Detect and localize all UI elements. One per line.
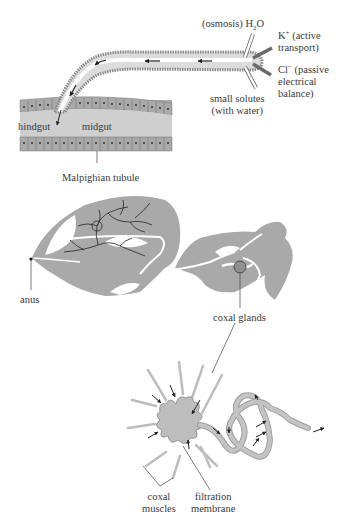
hindgut-label: hindgut [18, 121, 50, 133]
potassium-label: K+ (active transport) [278, 30, 321, 54]
coxal-glands-label: coxal glands [213, 312, 266, 324]
small-solutes-label: small solutes (with water) [210, 93, 265, 117]
midgut-label: midgut [82, 121, 112, 133]
arachnid-body [29, 196, 292, 300]
osmosis-label: (osmosis) H2O [202, 18, 264, 30]
coxal-gland-detail [128, 362, 324, 490]
chloride-label: Cl− (passive electrical balance) [278, 64, 329, 100]
malpighian-tubule-label: Malpighian tubule [62, 172, 139, 184]
filtration-membrane-label: filtration membrane [191, 491, 235, 515]
coxal-detail-pointer-line [212, 323, 235, 373]
coxal-muscles-label: coxal muscles [142, 491, 176, 515]
anus-label: anus [20, 294, 39, 306]
